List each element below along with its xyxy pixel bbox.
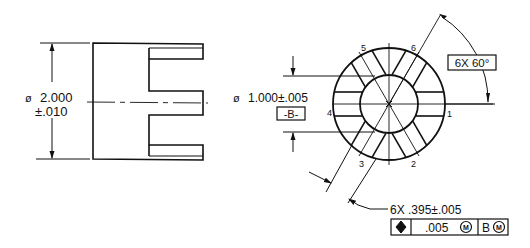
fcf-tolerance-modifier: M bbox=[463, 224, 469, 231]
fcf-datum-modifier: M bbox=[496, 224, 502, 231]
slot-number-4: 4 bbox=[327, 108, 332, 118]
side-diameter-tolerance: ±.010 bbox=[35, 104, 67, 119]
slot-number-6: 6 bbox=[411, 43, 416, 53]
slot-number-5: 5 bbox=[361, 43, 366, 53]
position-icon bbox=[396, 221, 406, 233]
side-diameter-symbol: ø bbox=[25, 92, 32, 104]
datum-b-label: -B- bbox=[284, 108, 299, 120]
angle-callout-text: 6X 60° bbox=[455, 57, 490, 69]
slot-number-1: 1 bbox=[447, 109, 452, 119]
feature-control-frame bbox=[391, 219, 508, 235]
part-outline bbox=[93, 43, 203, 160]
end-view bbox=[283, 14, 495, 209]
centerline bbox=[87, 102, 208, 103]
slot-number-3: 3 bbox=[359, 159, 364, 169]
technical-drawing: ø 2.000 ±.010 bbox=[0, 0, 530, 248]
side-diameter-value: 2.000 bbox=[40, 90, 73, 105]
bore-diameter-value: 1.000±.005 bbox=[248, 91, 308, 105]
bore-diameter-symbol: ø bbox=[233, 92, 240, 104]
fcf-tolerance: .005 bbox=[425, 221, 449, 235]
slot-number-2: 2 bbox=[411, 159, 416, 169]
slot-width-callout: 6X .395±.005 bbox=[390, 203, 462, 217]
fcf-datum: B bbox=[482, 221, 490, 235]
